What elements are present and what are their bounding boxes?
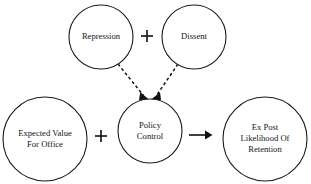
node-repression-label: Repression xyxy=(82,31,121,41)
node-ex-post-likelihood-of-retention-label-line-2: Likelihood Of xyxy=(241,133,290,143)
node-ex-post-likelihood-of-retention-label-line-1: Ex Post xyxy=(252,122,279,132)
node-ex-post-likelihood-of-retention[interactable]: Ex Post Likelihood Of Retention xyxy=(223,97,307,181)
edge-repression-to-policy-control xyxy=(118,64,149,100)
edge-line-repression-policy xyxy=(118,64,144,96)
node-policy-control[interactable]: Policy Control xyxy=(118,99,182,163)
nodes-layer: Repression Dissent Expected Value For Of… xyxy=(3,5,307,181)
arrowhead-policy-retention xyxy=(205,130,213,139)
causal-diagram: Repression Dissent Expected Value For Of… xyxy=(0,0,311,184)
edge-dissent-to-policy-control xyxy=(151,64,178,100)
node-expected-value-for-office-label-line-1: Expected Value xyxy=(18,128,72,138)
edge-line-dissent-policy xyxy=(157,64,179,96)
node-repression[interactable]: Repression xyxy=(69,5,133,69)
node-expected-value-for-office[interactable]: Expected Value For Office xyxy=(3,97,87,181)
edge-policy-control-to-retention xyxy=(189,130,213,139)
node-expected-value-for-office-label-line-2: For Office xyxy=(27,139,63,149)
node-dissent-label: Dissent xyxy=(181,31,207,41)
plus-sign-repression-dissent xyxy=(141,30,153,42)
node-dissent[interactable]: Dissent xyxy=(162,5,226,69)
node-policy-control-label-line-2: Control xyxy=(137,131,164,141)
node-ex-post-likelihood-of-retention-label-line-3: Retention xyxy=(248,144,282,154)
diagram-canvas: Repression Dissent Expected Value For Of… xyxy=(0,0,311,184)
node-policy-control-label-line-1: Policy xyxy=(139,120,162,130)
plus-sign-expected-value-policy-control xyxy=(95,130,107,142)
